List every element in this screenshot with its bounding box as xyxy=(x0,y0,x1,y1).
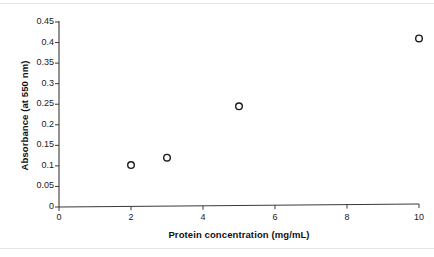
data-point xyxy=(416,35,423,42)
x-tick-label: 6 xyxy=(263,212,287,222)
x-axis-line xyxy=(59,204,419,207)
data-point xyxy=(236,103,243,110)
x-tick-label: 10 xyxy=(407,212,431,222)
x-tick-label: 2 xyxy=(119,212,143,222)
x-axis-title: Protein concentration (mg/mL) xyxy=(59,229,419,240)
y-tick-label: 0.45 xyxy=(20,16,54,26)
data-point xyxy=(128,162,135,169)
figure-canvas: 00.050.10.150.20.250.30.350.40.45 024681… xyxy=(0,0,434,257)
y-axis-title: Absorbance (at 550 nm) xyxy=(19,31,30,201)
x-tick-label: 8 xyxy=(335,212,359,222)
y-tick-label: 0 xyxy=(20,201,54,211)
x-axis-tick-labels: 0246810 xyxy=(0,212,434,228)
data-point xyxy=(164,154,171,161)
scatter-chart: 00.050.10.150.20.250.30.350.40.45 024681… xyxy=(0,0,434,257)
x-tick-label: 0 xyxy=(47,212,71,222)
x-tick-label: 4 xyxy=(191,212,215,222)
